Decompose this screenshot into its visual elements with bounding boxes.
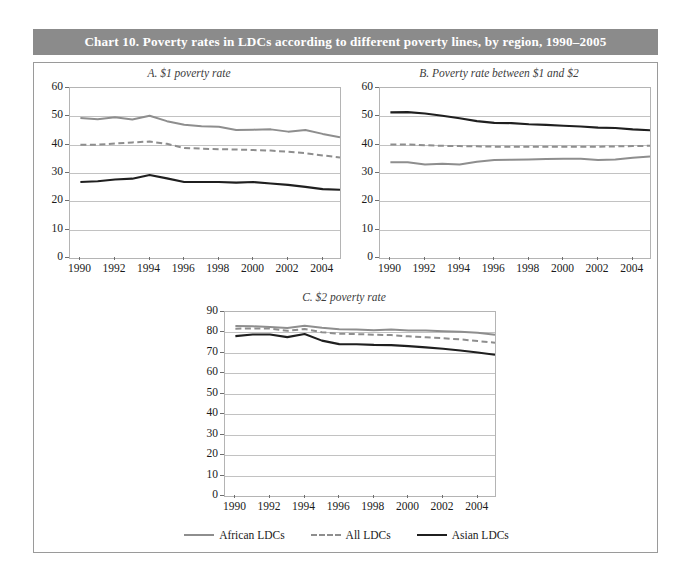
panel-c-plot: [224, 311, 496, 497]
y-axis-tick-mark: [220, 352, 224, 353]
y-axis-tick-label: 40: [192, 407, 218, 419]
legend-label: Asian LDCs: [452, 529, 509, 541]
y-axis-tick-mark: [375, 87, 379, 88]
chart-frame: A. $1 poverty rate 010203040506019901992…: [33, 62, 658, 553]
panel-a-plot: [69, 87, 341, 259]
y-axis-tick-label: 60: [37, 81, 63, 93]
page-title: Chart 10. Poverty rates in LDCs accordin…: [84, 34, 606, 50]
panel-c-title: C. $2 poverty rate: [189, 291, 499, 303]
chart-legend: African LDCsAll LDCsAsian LDCs: [34, 529, 659, 541]
x-axis-tick-mark: [407, 495, 408, 498]
y-axis-tick-mark: [375, 229, 379, 230]
legend-item: All LDCs: [311, 529, 391, 541]
series-line-african-ldcs: [80, 116, 340, 138]
x-axis-tick-mark: [269, 495, 270, 498]
x-axis-tick-mark: [597, 257, 598, 260]
series-layer: [380, 88, 650, 258]
y-axis-tick-label: 20: [37, 194, 63, 206]
y-axis-tick-label: 0: [347, 251, 373, 263]
y-axis-tick-label: 0: [37, 251, 63, 263]
panel-b-plot: [379, 87, 651, 259]
y-axis-tick-mark: [220, 393, 224, 394]
y-axis-tick-mark: [65, 200, 69, 201]
y-axis-tick-label: 30: [37, 166, 63, 178]
panel-c: C. $2 poverty rate 010203040506070809019…: [189, 291, 499, 523]
x-axis-tick-mark: [322, 257, 323, 260]
panel-a-title: A. $1 poverty rate: [34, 67, 344, 79]
x-axis-tick-mark: [287, 257, 288, 260]
x-axis-tick-mark: [442, 495, 443, 498]
series-line-african-ldcs: [235, 326, 495, 335]
y-axis-tick-mark: [65, 229, 69, 230]
line-swatch-icon: [417, 534, 447, 536]
x-axis-tick-mark: [493, 257, 494, 260]
panel-a: A. $1 poverty rate 010203040506019901992…: [34, 67, 344, 279]
legend-item: African LDCs: [184, 529, 284, 541]
y-axis-tick-label: 20: [347, 194, 373, 206]
x-axis-tick-label: 2004: [612, 263, 652, 275]
x-axis-tick-label: 2004: [302, 263, 342, 275]
x-axis-tick-mark: [304, 495, 305, 498]
series-line-african-ldcs: [390, 157, 650, 165]
line-swatch-icon: [184, 534, 214, 536]
y-axis-tick-label: 50: [192, 387, 218, 399]
panel-b-title: B. Poverty rate between $1 and $2: [344, 67, 654, 79]
y-axis-tick-label: 40: [347, 138, 373, 150]
y-axis-tick-mark: [375, 172, 379, 173]
y-axis-tick-label: 60: [192, 366, 218, 378]
y-axis-tick-label: 10: [192, 469, 218, 481]
y-axis-tick-label: 20: [192, 448, 218, 460]
y-axis-tick-mark: [65, 87, 69, 88]
y-axis-tick-mark: [220, 413, 224, 414]
y-axis-tick-label: 60: [347, 81, 373, 93]
y-axis-tick-label: 30: [192, 428, 218, 440]
y-axis-tick-mark: [220, 311, 224, 312]
series-layer: [225, 312, 495, 496]
x-axis-tick-mark: [424, 257, 425, 260]
y-axis-tick-label: 40: [37, 138, 63, 150]
y-axis-tick-label: 10: [37, 223, 63, 235]
x-axis-tick-mark: [389, 257, 390, 260]
x-axis-tick-mark: [373, 495, 374, 498]
x-axis-tick-mark: [234, 495, 235, 498]
y-axis-tick-mark: [220, 475, 224, 476]
x-axis-tick-mark: [528, 257, 529, 260]
y-axis-tick-label: 70: [192, 346, 218, 358]
y-axis-tick-mark: [65, 144, 69, 145]
y-axis-tick-mark: [220, 495, 224, 496]
x-axis-tick-mark: [632, 257, 633, 260]
legend-label: All LDCs: [346, 529, 391, 541]
panel-b: B. Poverty rate between $1 and $2 010203…: [344, 67, 654, 279]
y-axis-tick-mark: [220, 331, 224, 332]
chart-page: Chart 10. Poverty rates in LDCs accordin…: [0, 0, 686, 570]
y-axis-tick-label: 0: [192, 489, 218, 501]
y-axis-tick-label: 50: [37, 109, 63, 121]
y-axis-tick-mark: [65, 257, 69, 258]
y-axis-tick-mark: [220, 372, 224, 373]
y-axis-tick-mark: [375, 144, 379, 145]
y-axis-tick-mark: [375, 257, 379, 258]
chart-title-bar: Chart 10. Poverty rates in LDCs accordin…: [33, 29, 658, 55]
y-axis-tick-label: 30: [347, 166, 373, 178]
y-axis-tick-label: 10: [347, 223, 373, 235]
series-line-all-ldcs: [80, 142, 340, 158]
y-axis-tick-mark: [65, 172, 69, 173]
y-axis-tick-label: 50: [347, 109, 373, 121]
x-axis-tick-mark: [183, 257, 184, 260]
y-axis-tick-label: 90: [192, 305, 218, 317]
series-layer: [70, 88, 340, 258]
legend-item: Asian LDCs: [417, 529, 509, 541]
x-axis-tick-mark: [79, 257, 80, 260]
y-axis-tick-mark: [375, 200, 379, 201]
x-axis-tick-mark: [338, 495, 339, 498]
y-axis-tick-mark: [65, 115, 69, 116]
dashed-line-swatch-icon: [311, 534, 341, 536]
x-axis-tick-mark: [252, 257, 253, 260]
x-axis-tick-mark: [218, 257, 219, 260]
series-line-asian-ldcs: [390, 112, 650, 130]
series-line-asian-ldcs: [80, 175, 340, 190]
x-axis-tick-mark: [562, 257, 563, 260]
y-axis-tick-mark: [220, 434, 224, 435]
x-axis-tick-label: 2004: [457, 501, 497, 513]
x-axis-tick-mark: [114, 257, 115, 260]
